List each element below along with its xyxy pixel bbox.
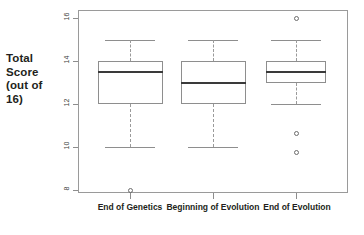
outlier-point-mid bbox=[294, 131, 299, 136]
y-tick-label-10: 10 bbox=[60, 142, 74, 149]
y-axis-title-line-1: Total bbox=[6, 52, 68, 66]
box bbox=[98, 61, 163, 104]
y-tick-label-14: 14 bbox=[60, 56, 74, 63]
x-tick-label-beginning-of-evolution: Beginning of Evolution bbox=[160, 202, 266, 212]
y-axis-title-line-4: 16) bbox=[6, 93, 68, 107]
median-line bbox=[98, 71, 163, 73]
y-tick-label-8: 8 bbox=[60, 185, 74, 192]
outlier-point-low bbox=[294, 150, 299, 155]
x-tick-0 bbox=[130, 193, 131, 199]
x-tick-label-end-of-evolution: End of Evolution bbox=[255, 202, 339, 212]
outlier-point bbox=[128, 188, 133, 193]
x-tick-label-end-of-genetics: End of Genetics bbox=[90, 202, 170, 212]
y-axis-title: Total Score (out of 16) bbox=[6, 52, 68, 106]
y-tick-label-12: 12 bbox=[60, 99, 74, 106]
y-tick-label-16: 16 bbox=[60, 13, 74, 20]
x-tick-2 bbox=[296, 193, 297, 199]
lower-cap bbox=[188, 147, 238, 148]
y-axis-title-line-3: (out of bbox=[6, 79, 68, 93]
boxplot-figure: Total Score (out of 16) 16 14 12 10 8 En… bbox=[0, 0, 364, 235]
median-line bbox=[181, 82, 246, 84]
lower-cap bbox=[271, 104, 321, 105]
lower-whisker bbox=[213, 104, 214, 147]
upper-whisker bbox=[296, 40, 297, 61]
x-tick-1 bbox=[213, 193, 214, 199]
lower-cap bbox=[105, 147, 155, 148]
y-axis-title-line-2: Score bbox=[6, 66, 68, 80]
upper-whisker bbox=[130, 40, 131, 61]
lower-whisker bbox=[130, 104, 131, 147]
outlier-point-high bbox=[294, 16, 299, 21]
median-line bbox=[266, 71, 326, 73]
upper-whisker bbox=[213, 40, 214, 61]
lower-whisker bbox=[296, 83, 297, 104]
